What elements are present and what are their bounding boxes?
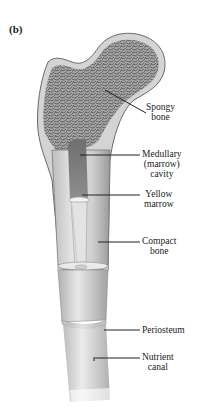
label-line: Compact (142, 236, 176, 246)
label-compact-bone: Compact bone (142, 236, 176, 256)
label-periosteum: Periosteum (142, 325, 185, 335)
medullary-cavity (68, 139, 88, 200)
label-line: Medullary (142, 149, 182, 159)
label-nutrient-canal: Nutrient canal (142, 352, 174, 372)
label-line: Yellow (144, 189, 174, 199)
label-yellow-marrow: Yellow marrow (144, 189, 174, 209)
label-line: Spongy (146, 102, 175, 112)
label-line: (marrow) (142, 159, 182, 169)
bone-segment (58, 270, 108, 322)
label-line: marrow (144, 199, 174, 209)
label-line: Nutrient (142, 352, 174, 362)
label-line: bone (146, 112, 175, 122)
label-line: canal (142, 362, 174, 372)
nutrient-canal-opening (93, 359, 95, 361)
label-line: cavity (142, 169, 182, 179)
label-line: bone (142, 246, 176, 256)
label-spongy-bone: Spongy bone (146, 102, 175, 122)
label-line: Periosteum (142, 325, 185, 335)
label-medullary-cavity: Medullary (marrow) cavity (142, 149, 182, 179)
